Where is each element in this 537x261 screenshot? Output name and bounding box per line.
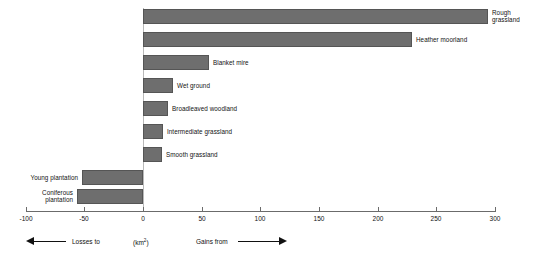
losses-label: Losses to (72, 238, 100, 245)
bar-label-wet-ground: Wet ground (177, 82, 210, 90)
bar-row: Blanket mire (0, 55, 537, 70)
bar-row: Heather moorland (0, 32, 537, 47)
x-tick-label: 0 (141, 215, 145, 222)
bar-smooth-grassland (143, 147, 162, 162)
x-tick-label: 50 (198, 215, 205, 222)
x-tick-label: -100 (19, 215, 32, 222)
units-prefix: (km (133, 239, 144, 246)
bar-row: Coniferous plantation (0, 189, 537, 204)
losses-arrow-head-icon (26, 237, 34, 245)
axis-direction-legend: Losses to (km2) Gains from (0, 232, 537, 261)
bar-label-broadleaved-woodland: Broadleaved woodland (172, 105, 237, 113)
x-tick-label: 300 (490, 215, 501, 222)
x-tick-label: 200 (373, 215, 384, 222)
x-tick (26, 207, 27, 212)
bar-coniferous-plantation (77, 189, 143, 204)
bar-label-smooth-grassland: Smooth grassland (166, 151, 218, 159)
bar-young-plantation (82, 170, 143, 185)
bar-row: Broadleaved woodland (0, 101, 537, 116)
bar-row: Young plantation (0, 170, 537, 185)
bar-row: Rough grassland (0, 9, 537, 24)
bar-row: Wet ground (0, 78, 537, 93)
x-tick (319, 207, 320, 212)
bar-heather-moorland (143, 32, 412, 47)
bar-label-blanket-mire: Blanket mire (213, 59, 249, 67)
bar-row: Intermediate grassland (0, 124, 537, 139)
gains-arrow-line (238, 241, 280, 242)
x-tick (202, 207, 203, 212)
bar-label-heather-moorland: Heather moorland (416, 36, 467, 44)
gains-label: Gains from (196, 238, 228, 245)
bar-label-young-plantation: Young plantation (0, 174, 78, 182)
bar-label-rough-grassland: Rough grassland (492, 9, 520, 24)
plot-area: Rough grassland Heather moorland Blanket… (0, 0, 537, 205)
x-tick-label: 100 (255, 215, 266, 222)
x-tick-label: 250 (431, 215, 442, 222)
x-tick (378, 207, 379, 212)
x-tick (436, 207, 437, 212)
units-suffix: ) (146, 239, 148, 246)
losses-arrow-line (34, 241, 66, 242)
x-tick (143, 207, 144, 212)
bar-chart: Rough grassland Heather moorland Blanket… (0, 0, 537, 261)
bar-rough-grassland (143, 9, 488, 24)
bar-broadleaved-woodland (143, 101, 168, 116)
gains-arrow-head-icon (279, 237, 287, 245)
bar-label-coniferous-plantation: Coniferous plantation (0, 189, 73, 204)
x-tick (260, 207, 261, 212)
bar-wet-ground (143, 78, 173, 93)
bar-intermediate-grassland (143, 124, 163, 139)
x-tick (84, 207, 85, 212)
bar-row: Smooth grassland (0, 147, 537, 162)
bar-blanket-mire (143, 55, 209, 70)
x-tick (495, 207, 496, 212)
bar-label-intermediate-grassland: Intermediate grassland (167, 128, 232, 136)
units-label: (km2) (133, 238, 149, 246)
x-tick-label: 150 (314, 215, 325, 222)
x-tick-label: -50 (79, 215, 88, 222)
